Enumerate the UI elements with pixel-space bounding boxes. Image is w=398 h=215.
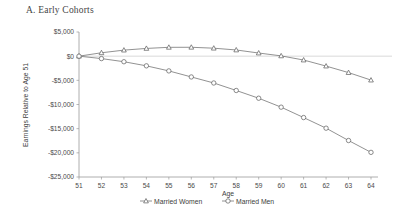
x-tick-label: 61	[300, 182, 308, 189]
line-chart: $5,000$0-$5,000-$10,000-$15,000-$20,000-…	[0, 0, 398, 215]
series-line	[79, 56, 371, 152]
x-tick-label: 63	[345, 182, 353, 189]
x-tick-label: 58	[233, 182, 241, 189]
data-point-marker	[212, 81, 216, 85]
legend-marker-circle	[226, 199, 230, 203]
data-point-marker	[301, 115, 305, 119]
data-point-marker	[99, 56, 103, 60]
data-point-marker	[77, 54, 81, 58]
legend-item-married-women: Married Women	[140, 198, 202, 205]
x-tick-label: 60	[277, 182, 285, 189]
data-point-marker	[256, 96, 260, 100]
x-axis-title: Age	[222, 190, 234, 198]
y-tick-label: -$15,000	[48, 125, 74, 132]
series-married-men	[77, 54, 373, 155]
legend-label: Married Men	[236, 198, 274, 205]
y-tick-label: -$5,000	[52, 77, 75, 84]
y-tick-label: -$20,000	[48, 149, 74, 156]
legend-item-married-men: Married Men	[222, 198, 274, 205]
series-married-women	[77, 45, 374, 82]
x-tick-label: 64	[367, 182, 375, 189]
x-tick-label: 62	[322, 182, 330, 189]
x-tick-label: 52	[98, 182, 106, 189]
chart-legend: Married WomenMarried Men	[140, 198, 274, 205]
x-tick-label: 51	[75, 182, 83, 189]
series-group	[77, 45, 374, 155]
x-axis-tick-labels: 5152535455565758596061626364	[75, 182, 375, 189]
data-point-marker	[167, 69, 171, 73]
x-tick-label: 53	[120, 182, 128, 189]
chart-figure: A. Early Cohorts $5,000$0-$5,000-$10,000…	[0, 0, 398, 215]
data-point-marker	[122, 60, 126, 64]
y-tick-label: -$25,000	[48, 173, 74, 180]
data-point-marker	[369, 150, 373, 154]
data-point-marker	[324, 126, 328, 130]
x-tick-label: 54	[143, 182, 151, 189]
data-point-marker	[346, 138, 350, 142]
y-axis-tick-labels: $5,000$0-$5,000-$10,000-$15,000-$20,000-…	[48, 28, 74, 180]
legend-label: Married Women	[154, 198, 202, 205]
data-point-marker	[189, 75, 193, 79]
x-tick-label: 57	[210, 182, 218, 189]
data-point-marker	[234, 88, 238, 92]
y-tick-label: $0	[67, 53, 75, 60]
data-point-marker	[279, 105, 283, 109]
y-axis-title: Earnings Relative to Age 51	[22, 63, 30, 147]
y-tick-label: $5,000	[54, 28, 75, 35]
x-tick-label: 55	[165, 182, 173, 189]
x-tick-label: 56	[188, 182, 196, 189]
y-tick-label: -$10,000	[48, 101, 74, 108]
x-tick-label: 59	[255, 182, 263, 189]
data-point-marker	[144, 64, 148, 68]
